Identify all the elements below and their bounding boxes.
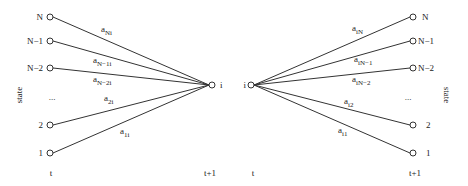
edge-i-to-N-1 [254, 41, 410, 85]
edge-i-to-N-2 [254, 68, 410, 85]
state-axis-label: state [14, 87, 24, 104]
state-transition-diagram: N N−1 N−2 ... 2 1 i aNi aN−1i aN−2i a2i … [0, 0, 468, 186]
ellipsis: ... [49, 92, 56, 102]
state-label: N−1 [27, 36, 43, 46]
state-node-N-1 [47, 38, 53, 44]
edge-N-1-to-i [53, 41, 209, 85]
state-label: 1 [39, 148, 44, 158]
edge-label: aNi [101, 24, 112, 37]
state-node-N [47, 14, 53, 20]
state-label: 1 [426, 148, 431, 158]
state-label: 2 [39, 120, 44, 130]
edge-label: ai1 [338, 125, 348, 138]
time-label-t: t [252, 168, 255, 178]
ellipsis: ... [405, 92, 412, 102]
target-node-i [209, 82, 215, 88]
edge-label: aN−2i [93, 74, 112, 87]
state-node-N-2 [47, 65, 53, 71]
edge-N-to-i [53, 17, 209, 85]
state-axis-label: state [442, 87, 452, 104]
state-label: N−1 [418, 36, 434, 46]
state-node-N-2 [410, 65, 416, 71]
state-node-1 [410, 150, 416, 156]
edge-label: a2i [104, 93, 114, 106]
edge-N-2-to-i [53, 68, 209, 85]
state-node-1 [47, 150, 53, 156]
source-node-i [248, 82, 254, 88]
state-label: N−2 [27, 63, 43, 73]
edge-label: aiN [352, 23, 363, 36]
time-label-t-plus-1: t+1 [204, 168, 216, 178]
state-node-2 [47, 122, 53, 128]
state-node-N [410, 14, 416, 20]
state-node-2 [410, 122, 416, 128]
state-label: 2 [426, 120, 431, 130]
state-label: N−2 [418, 63, 434, 73]
target-label: i [220, 80, 223, 90]
edge-i-to-N [254, 17, 410, 85]
time-label-t-plus-1: t+1 [409, 168, 421, 178]
edge-label: aiN−2 [352, 74, 371, 87]
right-panel: i N N−1 N−2 ... 2 1 aiN aiN−1 aiN−2 ai2 … [243, 12, 452, 178]
source-label: i [243, 80, 246, 90]
left-panel: N N−1 N−2 ... 2 1 i aNi aN−1i aN−2i a2i … [14, 12, 223, 178]
state-label: N [422, 12, 429, 22]
state-label: N [37, 12, 44, 22]
state-node-N-1 [410, 38, 416, 44]
edge-label: a1i [120, 126, 130, 139]
edge-label: ai2 [344, 96, 354, 109]
edge-label: aiN−1 [354, 54, 373, 67]
time-label-t: t [50, 168, 53, 178]
